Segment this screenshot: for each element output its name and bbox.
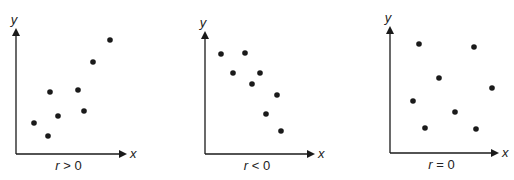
data-point	[47, 89, 53, 95]
data-point	[422, 125, 428, 131]
data-point	[274, 92, 280, 98]
data-point	[263, 111, 269, 117]
scatter-correlation-figure: yxr > 0yxr < 0yxr = 0	[0, 0, 514, 180]
correlation-caption: r = 0	[428, 157, 454, 172]
data-point	[416, 41, 422, 47]
x-axis-label: x	[317, 146, 325, 161]
data-point	[471, 44, 477, 50]
data-point	[452, 109, 458, 115]
data-point	[278, 128, 284, 134]
data-point	[257, 70, 263, 76]
data-point	[410, 98, 416, 104]
y-axis-arrow-icon	[201, 31, 209, 39]
x-axis-arrow-icon	[307, 150, 315, 158]
y-axis-label: y	[10, 12, 19, 27]
data-point	[75, 87, 81, 93]
data-point	[473, 126, 479, 132]
y-axis-arrow-icon	[12, 28, 20, 36]
data-point	[55, 113, 61, 119]
data-point	[45, 133, 51, 139]
data-point	[242, 50, 248, 56]
scatter-panel: yxr > 0	[10, 12, 137, 173]
correlation-caption: r < 0	[244, 158, 270, 173]
y-axis-label: y	[199, 15, 208, 30]
data-point	[81, 108, 87, 114]
scatter-panel: yxr = 0	[384, 10, 509, 172]
x-axis-label: x	[129, 146, 137, 161]
y-axis-arrow-icon	[386, 26, 394, 34]
correlation-caption: r > 0	[55, 158, 81, 173]
data-point	[107, 37, 113, 43]
data-point	[218, 51, 224, 57]
x-axis-arrow-icon	[119, 150, 127, 158]
data-point	[489, 85, 495, 91]
data-point	[230, 70, 236, 76]
data-point	[249, 81, 255, 87]
x-axis-arrow-icon	[491, 149, 499, 157]
data-point	[436, 75, 442, 81]
data-point	[31, 120, 37, 126]
scatter-panel: yxr < 0	[199, 15, 325, 173]
y-axis-label: y	[384, 10, 393, 25]
data-point	[90, 59, 96, 65]
x-axis-label: x	[501, 145, 509, 160]
